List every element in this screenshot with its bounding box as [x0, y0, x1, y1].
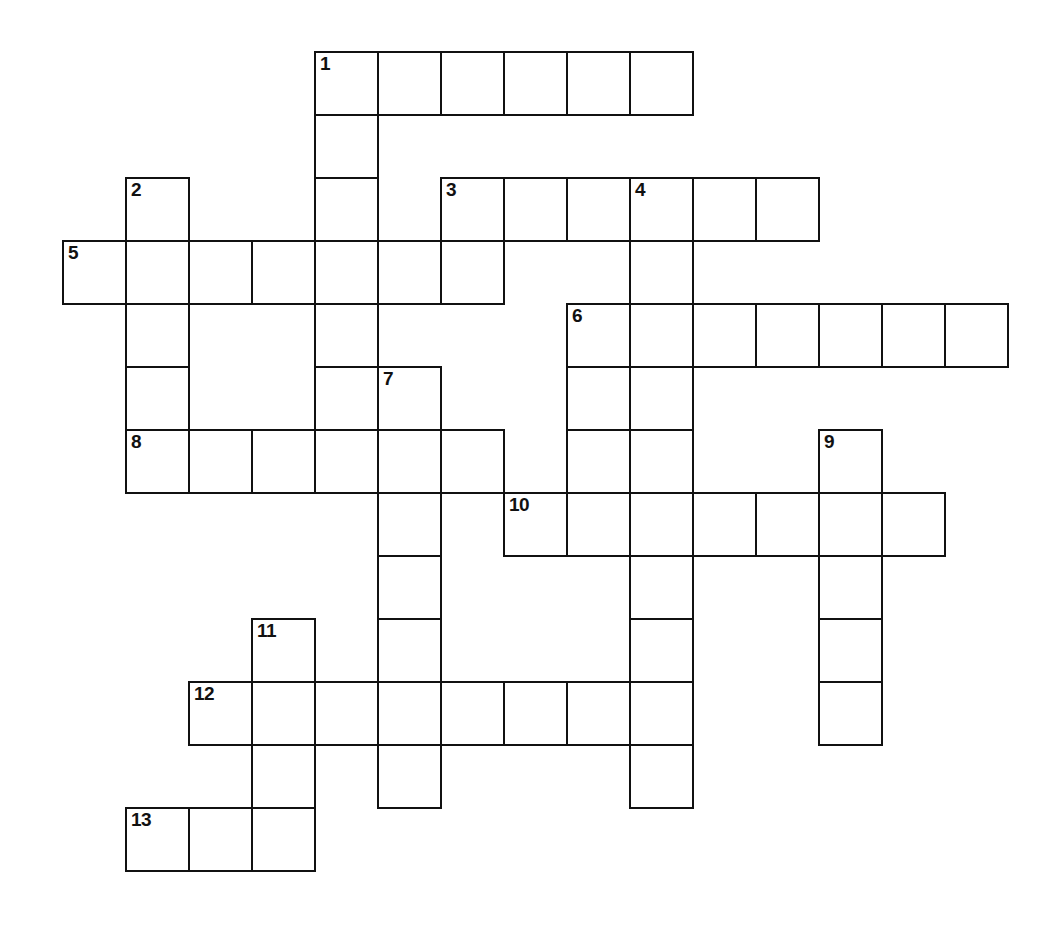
crossword-cell[interactable] [314, 114, 379, 179]
clue-number-10: 10 [509, 495, 529, 515]
crossword-cell[interactable] [377, 429, 442, 494]
clue-number-12: 12 [194, 684, 214, 704]
crossword-cell[interactable] [818, 555, 883, 620]
crossword-cell[interactable] [314, 681, 379, 746]
crossword-cell[interactable] [251, 807, 316, 872]
crossword-cell[interactable] [188, 807, 253, 872]
crossword-cell-numbered-1[interactable]: 1 [314, 51, 379, 116]
crossword-cell[interactable] [377, 492, 442, 557]
crossword-cell[interactable] [251, 744, 316, 809]
crossword-cell[interactable] [629, 429, 694, 494]
crossword-cell[interactable] [503, 51, 568, 116]
crossword-cell-numbered-10[interactable]: 10 [503, 492, 568, 557]
crossword-cell[interactable] [566, 681, 631, 746]
crossword-cell[interactable] [314, 303, 379, 368]
crossword-cell-numbered-2[interactable]: 2 [125, 177, 190, 242]
crossword-cell[interactable] [377, 681, 442, 746]
crossword-cell[interactable] [377, 744, 442, 809]
crossword-cell[interactable] [566, 429, 631, 494]
clue-number-11: 11 [257, 621, 276, 641]
crossword-cell[interactable] [503, 681, 568, 746]
crossword-cell[interactable] [881, 303, 946, 368]
clue-number-13: 13 [131, 810, 151, 830]
crossword-cell[interactable] [629, 681, 694, 746]
crossword-cell[interactable] [314, 429, 379, 494]
crossword-cell-numbered-13[interactable]: 13 [125, 807, 190, 872]
crossword-cell[interactable] [125, 303, 190, 368]
crossword-cell[interactable] [440, 681, 505, 746]
crossword-cell[interactable] [755, 303, 820, 368]
crossword-cell[interactable] [188, 429, 253, 494]
crossword-cell[interactable] [440, 429, 505, 494]
clue-number-9: 9 [824, 432, 834, 452]
crossword-cell[interactable] [377, 51, 442, 116]
crossword-cell[interactable] [251, 240, 316, 305]
crossword-cell[interactable] [440, 240, 505, 305]
crossword-cell[interactable] [629, 51, 694, 116]
crossword-cell-numbered-7[interactable]: 7 [377, 366, 442, 431]
crossword-cell-numbered-12[interactable]: 12 [188, 681, 253, 746]
clue-number-4: 4 [635, 180, 645, 200]
crossword-cell[interactable] [629, 555, 694, 620]
crossword-cell-numbered-3[interactable]: 3 [440, 177, 505, 242]
clue-number-2: 2 [131, 180, 141, 200]
crossword-puzzle: 12345678910111213 [0, 0, 1051, 937]
crossword-cell-numbered-8[interactable]: 8 [125, 429, 190, 494]
crossword-cell[interactable] [692, 492, 757, 557]
crossword-cell-numbered-6[interactable]: 6 [566, 303, 631, 368]
crossword-cell[interactable] [188, 240, 253, 305]
clue-number-7: 7 [383, 369, 393, 389]
crossword-cell[interactable] [125, 240, 190, 305]
crossword-cell[interactable] [377, 240, 442, 305]
crossword-cell[interactable] [629, 618, 694, 683]
crossword-cell[interactable] [881, 492, 946, 557]
crossword-cell[interactable] [629, 366, 694, 431]
crossword-cell[interactable] [377, 555, 442, 620]
crossword-cell[interactable] [314, 366, 379, 431]
crossword-cell[interactable] [692, 177, 757, 242]
crossword-cell[interactable] [566, 177, 631, 242]
crossword-cell[interactable] [377, 618, 442, 683]
crossword-cell[interactable] [944, 303, 1009, 368]
crossword-cell[interactable] [251, 429, 316, 494]
crossword-cell-numbered-4[interactable]: 4 [629, 177, 694, 242]
clue-number-6: 6 [572, 306, 582, 326]
crossword-cell[interactable] [314, 240, 379, 305]
crossword-cell[interactable] [629, 492, 694, 557]
clue-number-1: 1 [320, 54, 330, 74]
crossword-cell[interactable] [125, 366, 190, 431]
crossword-cell[interactable] [629, 240, 694, 305]
crossword-cell[interactable] [818, 492, 883, 557]
crossword-cell[interactable] [314, 177, 379, 242]
crossword-cell[interactable] [251, 681, 316, 746]
clue-number-8: 8 [131, 432, 141, 452]
crossword-cell[interactable] [629, 744, 694, 809]
crossword-cell-numbered-5[interactable]: 5 [62, 240, 127, 305]
crossword-cell[interactable] [566, 366, 631, 431]
crossword-cell[interactable] [818, 303, 883, 368]
crossword-cell[interactable] [440, 51, 505, 116]
clue-number-3: 3 [446, 180, 456, 200]
crossword-cell[interactable] [503, 177, 568, 242]
crossword-cell[interactable] [692, 303, 757, 368]
crossword-cell[interactable] [566, 492, 631, 557]
crossword-cell[interactable] [755, 177, 820, 242]
crossword-cell-numbered-9[interactable]: 9 [818, 429, 883, 494]
crossword-cell[interactable] [818, 618, 883, 683]
crossword-cell[interactable] [566, 51, 631, 116]
crossword-cell-numbered-11[interactable]: 11 [251, 618, 316, 683]
crossword-cell[interactable] [755, 492, 820, 557]
crossword-cell[interactable] [818, 681, 883, 746]
clue-number-5: 5 [68, 243, 78, 263]
crossword-cell[interactable] [629, 303, 694, 368]
